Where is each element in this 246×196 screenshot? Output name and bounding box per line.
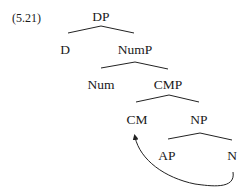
movement-arrow (135, 137, 233, 186)
branch-cmp (136, 95, 199, 102)
branch-nump (101, 62, 168, 69)
node-nump: NumP (118, 42, 153, 57)
node-num: Num (88, 77, 115, 92)
branch-dp (68, 26, 134, 33)
branch-np (168, 133, 232, 140)
node-dp: DP (92, 9, 109, 24)
example-number: (5.21) (12, 11, 41, 25)
node-np: NP (190, 112, 207, 127)
node-cmp: CMP (154, 77, 183, 92)
node-cm: CM (126, 112, 147, 127)
syntax-tree-diagram: (5.21) DP D NumP Num CMP CM NP AP N (0, 0, 246, 196)
node-ap: AP (158, 148, 175, 163)
node-n: N (227, 148, 237, 163)
node-d: D (60, 42, 70, 57)
